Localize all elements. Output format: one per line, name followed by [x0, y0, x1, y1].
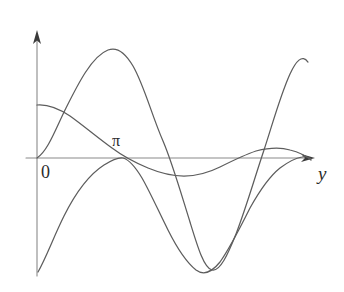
- curve-sine-wave: [37, 49, 308, 270]
- plot-canvas: [0, 0, 344, 292]
- origin-label: 0: [41, 163, 50, 181]
- curve-damped-oscillation: [37, 105, 311, 176]
- function-plot-figure: 0 π y: [0, 0, 344, 292]
- pi-tick-label: π: [112, 133, 120, 149]
- horizontal-axis-label: y: [318, 164, 326, 183]
